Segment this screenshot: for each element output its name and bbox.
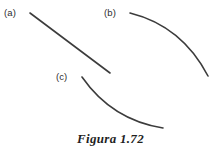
curve-label-b: (b) xyxy=(104,7,116,18)
curve-c xyxy=(82,77,163,128)
curve-b xyxy=(130,13,208,76)
curve-a xyxy=(30,13,110,73)
curve-label-a: (a) xyxy=(4,7,16,18)
figure-container: (a) (b) (c) Figura 1.72 xyxy=(0,0,221,153)
figure-caption: Figura 1.72 xyxy=(0,131,221,147)
curve-label-c: (c) xyxy=(56,71,67,82)
